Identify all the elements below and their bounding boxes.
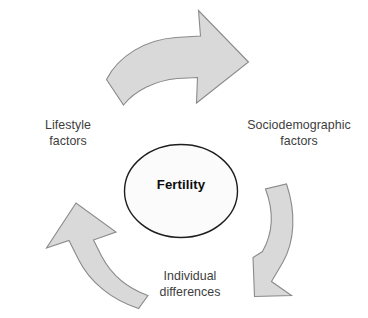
arrow-top — [107, 11, 249, 106]
label-individual-differences: Individual differences — [130, 269, 250, 300]
hub-label: Fertility — [125, 177, 237, 192]
label-sociodemographic-line2: factors — [232, 134, 366, 150]
cycle-diagram: Fertility Lifestyle factors Sociodemogra… — [0, 0, 368, 318]
label-individual-line1: Individual — [130, 269, 250, 285]
label-lifestyle-line2: factors — [14, 134, 122, 150]
hub-label-text: Fertility — [157, 177, 206, 192]
arrow-right — [253, 184, 293, 297]
label-sociodemographic-line1: Sociodemographic — [232, 118, 366, 134]
label-sociodemographic-factors: Sociodemographic factors — [232, 118, 366, 149]
label-individual-line2: differences — [130, 285, 250, 301]
label-lifestyle-factors: Lifestyle factors — [14, 118, 122, 149]
label-lifestyle-line1: Lifestyle — [14, 118, 122, 134]
